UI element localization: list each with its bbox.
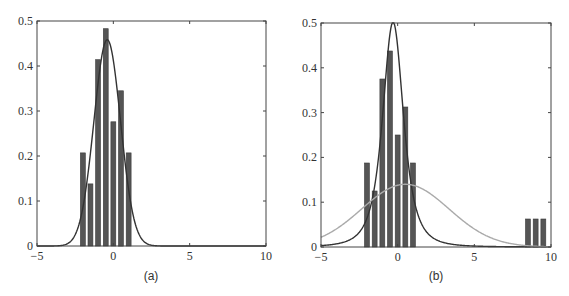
axes-frame — [37, 21, 266, 246]
x-tick-label: 10 — [260, 249, 272, 263]
panel-b-caption: (b) — [429, 269, 444, 283]
y-tick-label: 0.1 — [18, 194, 33, 208]
panel-a-caption: (a) — [144, 269, 159, 283]
y-tick-label: 0.5 — [18, 14, 33, 28]
y-tick-label: 0.2 — [18, 149, 33, 163]
histogram-bar — [541, 219, 546, 247]
x-tick-label: 10 — [545, 250, 557, 264]
panel-b-robust-fit: 00.10.20.30.40.5−50510 — [302, 16, 557, 264]
y-tick-label: 0.1 — [302, 195, 317, 209]
y-tick-label: 0.3 — [18, 104, 33, 118]
x-tick-label: 5 — [187, 249, 193, 263]
x-tick-label: 0 — [395, 250, 401, 264]
histogram-bar — [533, 219, 538, 247]
gaussian-fit-curve — [37, 40, 266, 246]
histogram-bar — [526, 219, 531, 247]
histogram-bar — [103, 29, 108, 246]
x-tick-label: −5 — [31, 249, 44, 263]
histogram-bar — [395, 135, 400, 247]
y-tick-label: 0.3 — [302, 106, 317, 120]
panel-a-gaussian-fit: 00.10.20.30.40.5−50510 — [18, 14, 272, 263]
histogram-bar — [111, 122, 116, 246]
y-tick-label: 0.5 — [302, 16, 317, 30]
histogram-bar — [403, 107, 408, 247]
histogram-bar — [88, 184, 93, 246]
x-tick-label: 5 — [471, 250, 477, 264]
y-tick-label: 0.4 — [302, 61, 317, 75]
student-t-fit-curve — [321, 23, 551, 247]
gaussian-fit-curve — [321, 184, 551, 246]
y-tick-label: 0.2 — [302, 150, 317, 164]
y-tick-label: 0.4 — [18, 59, 33, 73]
x-tick-label: 0 — [110, 249, 116, 263]
x-tick-label: −5 — [315, 250, 328, 264]
histogram-figure: 00.10.20.30.40.5−50510 00.10.20.30.40.5−… — [0, 0, 569, 296]
histogram-bar — [388, 51, 393, 247]
